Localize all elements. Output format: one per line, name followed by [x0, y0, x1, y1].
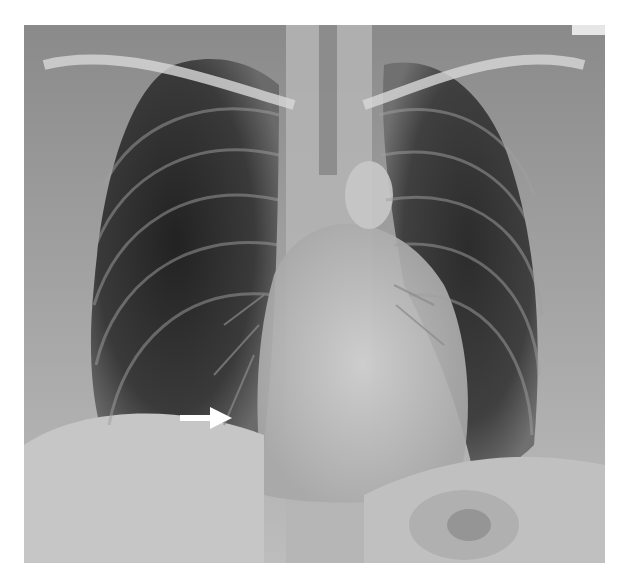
aortic-knob [345, 161, 393, 229]
right-hemidiaphragm [24, 414, 264, 563]
xray-drawing [24, 25, 605, 563]
gastric-bubble-inner [447, 509, 491, 541]
film-marker [572, 25, 605, 35]
chest-xray-image [24, 25, 605, 563]
annotation-arrow-icon [178, 405, 234, 431]
trachea [319, 25, 337, 175]
